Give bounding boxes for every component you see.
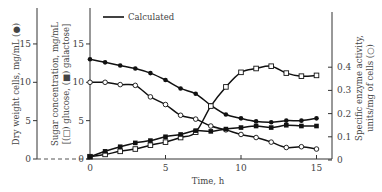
series-open-circle-declining	[88, 80, 319, 151]
data-point	[148, 138, 153, 143]
data-point	[178, 86, 183, 91]
x-tick-label: 15	[311, 163, 323, 173]
data-point	[163, 134, 168, 139]
data-point	[314, 73, 319, 78]
data-point	[239, 70, 244, 75]
data-point	[254, 66, 259, 71]
x-tick-label: 0	[87, 163, 93, 173]
data-point	[193, 128, 198, 133]
series-filled-circle-declining	[88, 57, 319, 124]
series-line	[90, 82, 317, 149]
legend: Calculated	[103, 12, 175, 22]
series-line	[90, 66, 317, 157]
data-point	[284, 145, 289, 150]
left-outer-tick-label: 10	[20, 77, 32, 87]
right-tick-label: 0	[337, 155, 343, 165]
left-outer-tick-label: 0	[25, 154, 31, 164]
chart: 05101505101505101500.10.20.30.4 Dry weig…	[0, 0, 382, 192]
data-point	[193, 92, 198, 97]
data-point	[269, 125, 274, 130]
data-point	[209, 129, 214, 134]
data-point	[163, 140, 168, 145]
data-point	[148, 71, 153, 76]
data-point	[254, 119, 259, 124]
data-point	[284, 118, 289, 123]
data-point	[269, 64, 274, 69]
data-point	[239, 132, 244, 137]
right-tick-label: 0.1	[337, 132, 351, 142]
data-point	[133, 141, 138, 146]
data-point	[269, 120, 274, 125]
data-point	[148, 95, 153, 100]
data-point	[118, 63, 123, 68]
data-point	[163, 102, 168, 107]
data-point	[299, 74, 304, 79]
right-tick-label: 0.3	[337, 85, 352, 95]
x-axis-title: Time, h	[192, 176, 225, 186]
data-point	[299, 118, 304, 123]
right-tick-label: 0.2	[337, 109, 351, 119]
data-point	[209, 104, 214, 109]
data-point	[103, 80, 108, 85]
data-point	[88, 57, 93, 62]
right-tick-label: 0.4	[337, 62, 352, 72]
data-point	[133, 66, 138, 71]
data-point	[88, 80, 93, 85]
left-inner-tick-label: 15	[73, 39, 85, 49]
left-inner-axis-title-line1: Sugar concentration, mg/mL	[50, 22, 60, 146]
right-axis-title-line2: units/mg of cells (○)	[365, 44, 375, 132]
data-point	[239, 125, 244, 130]
data-point	[284, 123, 289, 128]
data-point	[118, 149, 123, 154]
data-point	[239, 116, 244, 121]
series	[88, 57, 319, 159]
left-outer-axis-title: Dry weight cells, mg/mL (●)	[11, 23, 21, 145]
data-point	[148, 143, 153, 148]
x-tick-label: 5	[163, 163, 169, 173]
left-inner-tick-label: 5	[78, 116, 84, 126]
data-point	[224, 112, 229, 117]
data-point	[314, 124, 319, 129]
data-point	[133, 147, 138, 152]
data-point	[314, 116, 319, 121]
data-point	[284, 71, 289, 76]
series-line	[90, 125, 317, 156]
data-point	[103, 149, 108, 154]
left-outer-tick-label: 5	[25, 116, 31, 126]
data-point	[118, 82, 123, 87]
legend-label: Calculated	[128, 12, 175, 22]
data-point	[163, 78, 168, 83]
data-point	[254, 135, 259, 140]
left-outer-tick-label: 15	[20, 39, 32, 49]
data-point	[224, 127, 229, 132]
left-inner-tick-label: 10	[73, 77, 85, 87]
data-point	[269, 140, 274, 145]
data-point	[133, 83, 138, 88]
left-inner-axis-title-line2: [(□) glucose, (■) galactose]	[61, 24, 71, 145]
right-axis-title-line1: Specific enzyme activity,	[354, 35, 364, 141]
left-inner-tick-label: 0	[78, 154, 84, 164]
data-point	[88, 154, 93, 159]
data-point	[103, 60, 108, 65]
data-point	[118, 144, 123, 149]
data-point	[254, 124, 259, 129]
data-point	[299, 144, 304, 149]
series-line	[90, 59, 317, 122]
x-tick-label: 10	[235, 163, 247, 173]
data-point	[209, 124, 214, 129]
data-point	[193, 117, 198, 122]
data-point	[314, 147, 319, 152]
data-point	[178, 113, 183, 118]
data-point	[178, 132, 183, 137]
data-point	[224, 85, 229, 90]
data-point	[299, 124, 304, 129]
